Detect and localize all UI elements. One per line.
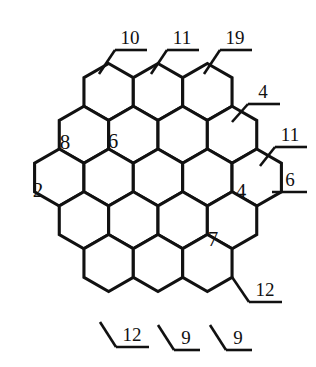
honeycomb-cell — [84, 235, 133, 292]
cell-label-4-3: 4 — [236, 179, 247, 203]
callout-label-12-6: 12 — [256, 279, 275, 300]
callout-label-4-3: 4 — [258, 81, 268, 102]
honeycomb-diagram: 86247 1011194116129912 — [0, 0, 316, 367]
callout-leader-line — [100, 322, 116, 347]
callout-label-6-5: 6 — [285, 169, 295, 190]
callout-leader-line — [158, 325, 174, 350]
cell-label-6-1: 6 — [108, 129, 119, 153]
cell-label-8-0: 8 — [60, 130, 71, 154]
callout-label-11-4: 11 — [281, 124, 299, 145]
callout-label-11-1: 11 — [173, 27, 191, 48]
honeycomb-cell — [133, 235, 182, 292]
callout-leader-line — [232, 277, 249, 302]
honeycomb-cells — [35, 64, 282, 292]
cell-label-7-4: 7 — [208, 227, 219, 251]
callout-label-12-9: 12 — [123, 324, 142, 345]
callout-label-10-0: 10 — [121, 27, 140, 48]
cell-label-2-2: 2 — [33, 178, 44, 202]
callout-label-9-8: 9 — [181, 327, 191, 348]
callout-label-9-7: 9 — [233, 327, 243, 348]
callout-leader-line — [210, 325, 226, 350]
patent-figure: 86247 1011194116129912 — [0, 0, 316, 367]
callout-label-19-2: 19 — [226, 27, 245, 48]
